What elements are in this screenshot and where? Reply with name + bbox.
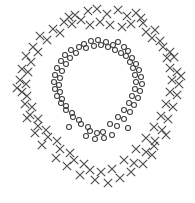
plot-background xyxy=(0,0,195,203)
scatter-plot-canvas xyxy=(0,0,195,203)
scatter-plot-figure xyxy=(0,0,195,203)
